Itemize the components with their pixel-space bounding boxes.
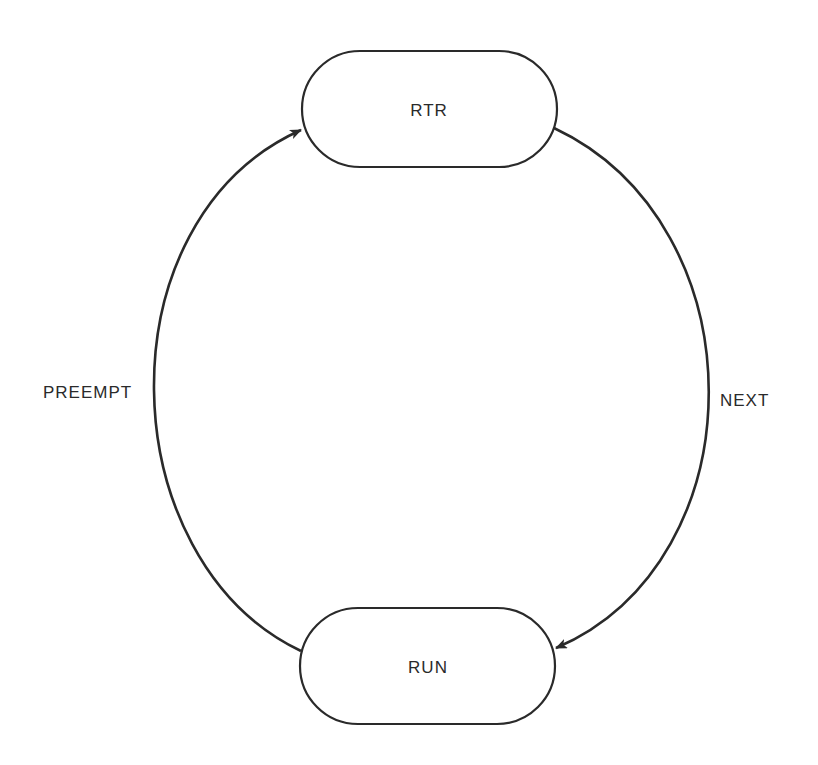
node-rtr: RTR: [302, 51, 557, 167]
next-arrow: [554, 128, 709, 648]
rtr-label: RTR: [410, 101, 448, 120]
next-label: NEXT: [720, 391, 769, 410]
edge-next: NEXT: [554, 128, 769, 648]
edge-preempt: PREEMPT: [43, 130, 301, 651]
run-label: RUN: [408, 658, 448, 677]
state-diagram: PREEMPT NEXT RTR RUN: [0, 0, 818, 765]
preempt-label: PREEMPT: [43, 383, 132, 402]
node-run: RUN: [300, 608, 555, 724]
preempt-arrow: [154, 130, 301, 651]
